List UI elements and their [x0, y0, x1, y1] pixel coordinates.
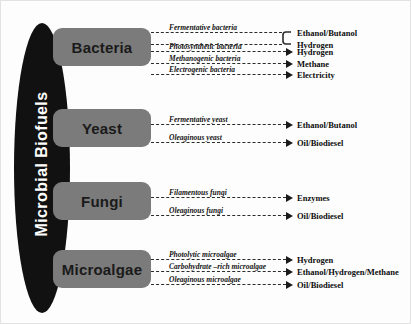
- arrowhead-icon: [286, 48, 293, 56]
- connector-line: [151, 74, 286, 75]
- product-label: Hydrogen: [297, 255, 333, 265]
- product-label: Oil/Biodiesel: [297, 211, 343, 221]
- connector-row: Fermentative yeast: [151, 119, 296, 131]
- arrowhead-icon: [286, 281, 293, 289]
- connector-line: [151, 124, 286, 125]
- product-label: Oil/Biodiesel: [297, 280, 343, 290]
- arrowhead-icon: [286, 60, 293, 68]
- arrowhead-icon: [286, 71, 293, 79]
- branch-label: Oleaginous microalgae: [169, 275, 241, 284]
- branch-label: Fermentative yeast: [169, 115, 228, 124]
- brace-connector-icon: [282, 30, 292, 46]
- connector-row: Filamentous fungi: [151, 192, 296, 204]
- arrowhead-icon: [286, 121, 293, 129]
- connector-row: Oleaginous yeast: [151, 137, 296, 149]
- connector-line: [151, 271, 286, 272]
- arrowhead-icon: [286, 256, 293, 264]
- connector-row: Fermentative bacteria: [151, 27, 296, 39]
- branch-label: Electrogenic bacteria: [169, 65, 235, 74]
- arrowhead-icon: [286, 194, 293, 202]
- product-label: Ethanol/Butanol: [297, 120, 357, 130]
- group-box-bacteria[interactable]: Bacteria: [53, 28, 151, 66]
- group-box-label: Fungi: [81, 193, 123, 210]
- product-label: Ethanol/Hydrogen/Methane: [297, 267, 399, 277]
- product-label: Ethanol/Butanol: [297, 28, 357, 38]
- connector-row: Oleaginous fungi: [151, 210, 296, 222]
- group-box-yeast[interactable]: Yeast: [53, 109, 151, 147]
- group-box-label: Microalgae: [62, 261, 142, 278]
- connector-row: Electrogenic bacteria: [151, 69, 296, 81]
- trunk-label: Microbial Biofuels: [33, 30, 51, 298]
- branch-label: Fermentative bacteria: [169, 23, 237, 32]
- product-label: Enzymes: [297, 193, 330, 203]
- group-box-label: Bacteria: [72, 39, 133, 56]
- arrowhead-icon: [286, 268, 293, 276]
- branch-label: Photolytic microalgae: [169, 250, 237, 259]
- connector-line: [151, 215, 286, 216]
- connector-line: [151, 197, 286, 198]
- branch-label: Oleaginous fungi: [169, 206, 223, 215]
- product-label: Methane: [297, 59, 329, 69]
- connector-line: [151, 32, 282, 33]
- group-box-label: Yeast: [82, 120, 122, 137]
- connector-row: Oleaginous microalgae: [151, 279, 296, 291]
- group-box-microalgae[interactable]: Microalgae: [53, 250, 151, 288]
- product-label: Hydrogen: [297, 47, 333, 57]
- connector-line: [151, 259, 286, 260]
- connector-line: [151, 51, 286, 52]
- branch-label: Methanogenic bacteria: [169, 54, 240, 63]
- arrowhead-icon: [286, 139, 293, 147]
- product-label: Oil/Biodiesel: [297, 138, 343, 148]
- branch-label: Filamentous fungi: [169, 188, 227, 197]
- product-label: Electricity: [297, 70, 335, 80]
- group-box-fungi[interactable]: Fungi: [53, 182, 151, 220]
- connector-line: [151, 284, 286, 285]
- arrowhead-icon: [286, 212, 293, 220]
- branch-label: Carbohydrate –rich microalgae: [169, 262, 266, 271]
- diagram-canvas: Microbial Biofuels BacteriaFermentative …: [0, 0, 411, 324]
- connector-line: [151, 142, 286, 143]
- connector-line: [151, 63, 286, 64]
- branch-label: Photosynthetic bacteria: [169, 42, 242, 51]
- branch-label: Oleaginous yeast: [169, 133, 222, 142]
